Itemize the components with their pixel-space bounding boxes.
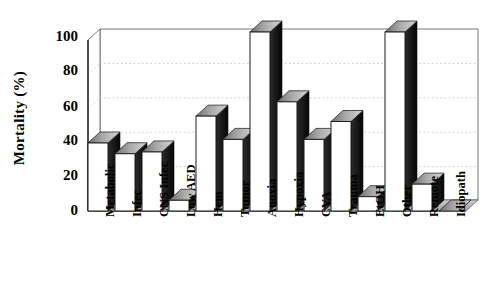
x-label-hypoxia: Hypoxia <box>293 172 306 217</box>
plot-area <box>0 0 495 304</box>
x-label-remote: Remote <box>428 176 441 217</box>
x-label-low-aed: Low AED <box>185 165 198 217</box>
x-label-other: Other <box>401 185 414 217</box>
x-label-tumor: Tumor <box>239 181 252 217</box>
x-label-hem: Hem <box>212 191 225 217</box>
bar-other <box>385 21 417 211</box>
x-label-anoxia: Anoxia <box>266 179 279 217</box>
x-label-etoh: EtOH <box>374 185 387 217</box>
x-label-cns-infec: CNS Infec <box>158 162 171 217</box>
x-label-metabolic: Metabolic <box>104 164 117 217</box>
x-label-cva: CVA <box>320 192 333 217</box>
chart-figure: Mortality (%) 100 80 60 40 20 0 <box>0 0 495 304</box>
x-label-infec: Infec <box>131 190 144 217</box>
x-label-idiopath: Idiopath <box>455 171 468 217</box>
x-label-trauma: Trauma <box>347 174 360 217</box>
